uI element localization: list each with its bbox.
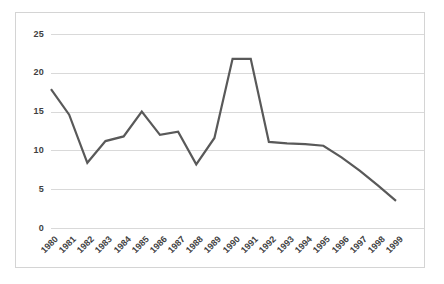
chart-frame: 25 20 15 10 5 0 198019811982198319841985… — [15, 12, 425, 268]
x-axis-labels: 1980198119821983198419851986198719881989… — [16, 230, 424, 270]
series-line — [51, 59, 396, 201]
plot-area: 25 20 15 10 5 0 198019811982198319841985… — [16, 13, 424, 267]
data-line-chart — [16, 13, 424, 267]
